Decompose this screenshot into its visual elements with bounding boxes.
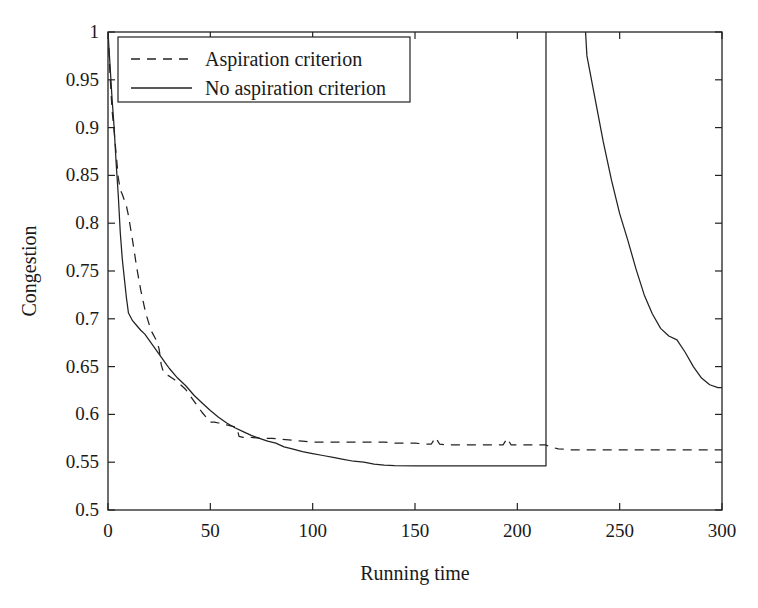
y-tick-label: 0.5 <box>75 499 99 520</box>
x-tick-label: 0 <box>103 520 113 541</box>
legend-label-no-aspiration-criterion: No aspiration criterion <box>205 77 386 100</box>
x-tick-label: 200 <box>503 520 532 541</box>
y-tick-label: 0.6 <box>75 403 99 424</box>
x-tick-label: 300 <box>708 520 737 541</box>
chart-figure: 050100150200250300 0.50.550.60.650.70.75… <box>0 0 758 608</box>
y-tick-label: 0.7 <box>75 308 99 329</box>
x-tick-label: 100 <box>298 520 327 541</box>
x-tick-label: 150 <box>401 520 430 541</box>
y-tick-label: 0.65 <box>66 356 99 377</box>
y-tick-label: 0.95 <box>66 69 99 90</box>
chart-legend: Aspiration criterion No aspiration crite… <box>118 37 410 102</box>
x-tick-label: 250 <box>605 520 634 541</box>
congestion-vs-running-time-chart: 050100150200250300 0.50.550.60.650.70.75… <box>0 0 758 608</box>
y-tick-label: 0.75 <box>66 260 99 281</box>
y-axis-title: Congestion <box>18 225 41 316</box>
x-tick-label: 50 <box>201 520 220 541</box>
y-tick-label: 0.85 <box>66 164 99 185</box>
y-tick-label: 0.9 <box>75 117 99 138</box>
x-axis-title: Running time <box>360 562 470 585</box>
legend-label-aspiration-criterion: Aspiration criterion <box>205 48 362 71</box>
y-tick-label: 0.8 <box>75 212 99 233</box>
y-tick-label: 0.55 <box>66 451 99 472</box>
y-tick-label: 1 <box>90 21 100 42</box>
